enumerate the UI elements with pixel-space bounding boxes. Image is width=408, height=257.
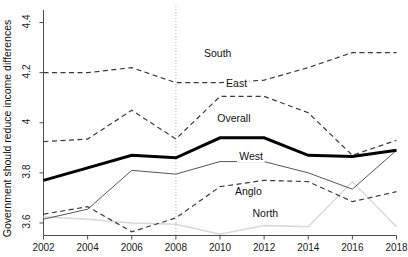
y-tick-label: 3.8 <box>20 158 31 184</box>
series-label-west: West <box>237 150 265 162</box>
series-line-east <box>44 96 397 155</box>
x-tick-label: 2008 <box>161 242 191 253</box>
series-line-west <box>44 150 397 219</box>
y-axis-title: Government should reduce income differen… <box>1 0 17 257</box>
x-tick-label: 2016 <box>337 242 367 253</box>
data-series-group <box>44 53 397 235</box>
y-tick-label: 4 <box>20 108 31 134</box>
x-tick-label: 2018 <box>382 242 408 253</box>
series-label-north: North <box>251 207 281 219</box>
x-tick-label: 2006 <box>117 242 147 253</box>
income-differences-line-chart: Government should reduce income differen… <box>0 0 408 257</box>
x-tick-label: 2014 <box>293 242 323 253</box>
series-label-overall: Overall <box>215 112 252 124</box>
series-label-east: East <box>224 77 249 89</box>
x-tick-label: 2012 <box>249 242 279 253</box>
series-label-south: South <box>202 47 233 59</box>
y-axis-ticks <box>40 23 44 223</box>
x-tick-label: 2004 <box>73 242 103 253</box>
chart-plot-area <box>0 0 408 257</box>
y-tick-label: 3.6 <box>20 208 31 234</box>
y-tick-label: 4.2 <box>20 58 31 84</box>
series-line-overall <box>44 138 397 181</box>
x-tick-label: 2010 <box>205 242 235 253</box>
x-tick-label: 2002 <box>29 242 59 253</box>
series-label-anglo: Anglo <box>233 185 264 197</box>
y-tick-label: 4.4 <box>20 8 31 34</box>
series-line-anglo <box>44 180 397 231</box>
series-line-north <box>44 182 397 235</box>
x-axis-ticks <box>44 236 397 240</box>
